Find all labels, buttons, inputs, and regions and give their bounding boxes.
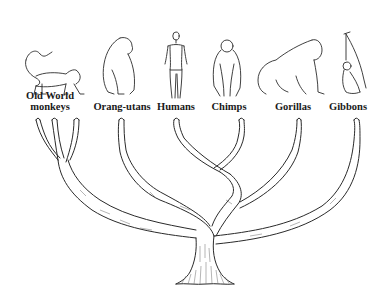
branch-great-apes <box>118 120 301 236</box>
label-old-world-monkeys-line1: Old World <box>26 90 74 101</box>
phylogenetic-tree-diagram: Old World monkeys Orang-utans Humans Chi… <box>0 0 387 302</box>
label-gibbons: Gibbons <box>329 101 367 112</box>
label-gorillas: Gorillas <box>275 101 311 112</box>
chimp-illustration <box>213 40 240 96</box>
gibbon-illustration <box>343 32 366 94</box>
label-old-world-monkeys: Old World monkeys <box>26 90 74 112</box>
label-humans: Humans <box>157 101 195 112</box>
label-orang-utans: Orang-utans <box>93 101 150 112</box>
label-old-world-monkeys-line2: monkeys <box>26 101 74 112</box>
human-illustration <box>165 32 187 98</box>
branch-tips <box>36 118 359 120</box>
branch-old-world-monkeys <box>36 120 196 238</box>
orang-utan-illustration <box>103 37 134 94</box>
old-world-monkey-illustration <box>25 51 84 94</box>
label-chimps: Chimps <box>211 101 246 112</box>
gorilla-illustration <box>258 40 324 94</box>
branch-gibbons <box>214 120 360 244</box>
tree-drawing <box>0 0 387 302</box>
